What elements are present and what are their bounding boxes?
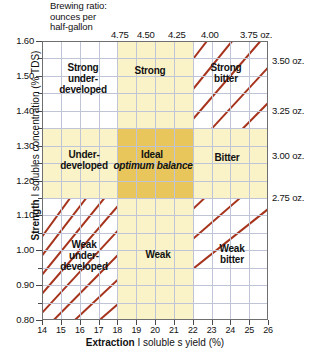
ratio-label-300: 3.00 oz. [272,150,304,161]
zone-strong: Strong [120,66,180,77]
gridline-h [42,285,268,286]
y-tick-label: 0.90 [2,279,34,290]
x-tick-label: 23 [203,325,221,335]
x-tick-label: 25 [240,325,258,335]
x-tick-label: 21 [165,325,183,335]
gridline-h [42,198,268,199]
zone-weak: Weak [133,250,183,261]
gridline-h [42,146,268,147]
y-minor-tick [38,303,42,304]
x-tick-label: 18 [108,325,126,335]
x-tick-label: 24 [221,325,239,335]
x-tick-label: 15 [52,325,70,335]
ratio-label-475: 4.75 [111,29,129,40]
x-axis-title: Extraction I soluble s yield (%) [42,337,268,348]
ratio-label-450: 4.50 [137,29,155,40]
x-tick-label: 17 [90,325,108,335]
zone-weak-underdeveloped: Weak under- developed [48,240,120,272]
x-tick-label: 22 [184,325,202,335]
x-tick-label: 14 [33,325,51,335]
y-tick [36,41,42,42]
x-axis-title-bold: Extraction [86,337,135,348]
gridline-h [42,181,268,182]
y-axis-title: Strength I solubles concentration (% TDS… [30,51,41,241]
gridline-h [42,215,268,216]
y-tick [36,250,42,251]
ratio-label-425: 4.25 [168,29,186,40]
x-tick-label: 19 [127,325,145,335]
x-tick-label: 26 [259,325,277,335]
ratio-label-275: 2.75 oz. [272,192,304,203]
y-tick-label: 1.00 [2,244,34,255]
zone-ideal-subtitle: optimum balance [103,161,203,172]
brewing-ratio-caption: Brewing ratio: ounces per half-gallon [50,1,107,33]
y-tick [36,285,42,286]
gridline-h [42,58,268,59]
brewing-control-chart: Brewing ratio: ounces per half-gallon 4.… [0,0,310,354]
x-axis-title-rest: I soluble s yield (%) [135,337,224,348]
y-axis-title-bold: Strength [30,199,41,240]
y-axis-title-rest: I solubles concentration (% TDS) [30,51,41,200]
y-minor-tick [38,268,42,269]
gridline-h [42,128,268,129]
gridline-h [42,111,268,112]
gridline-h [42,303,268,304]
zone-strong-bitter: Strong bitter [196,63,256,85]
gridline-h [42,233,268,234]
zone-strong-underdeveloped: Strong under- developed [46,63,120,95]
ratio-label-375: 3.75 oz. [240,29,272,40]
y-tick-label: 0.80 [2,314,34,325]
x-tick-label: 16 [71,325,89,335]
x-tick-label: 20 [146,325,164,335]
zone-bitter: Bitter [203,153,251,164]
ratio-label-400: 4.00 [201,29,219,40]
ratio-label-325: 3.25 oz. [272,105,304,116]
y-tick-label: 1.60 [2,35,34,46]
ratio-label-350: 3.50 oz. [272,55,304,66]
zone-weak-bitter: Weak bitter [206,244,258,266]
